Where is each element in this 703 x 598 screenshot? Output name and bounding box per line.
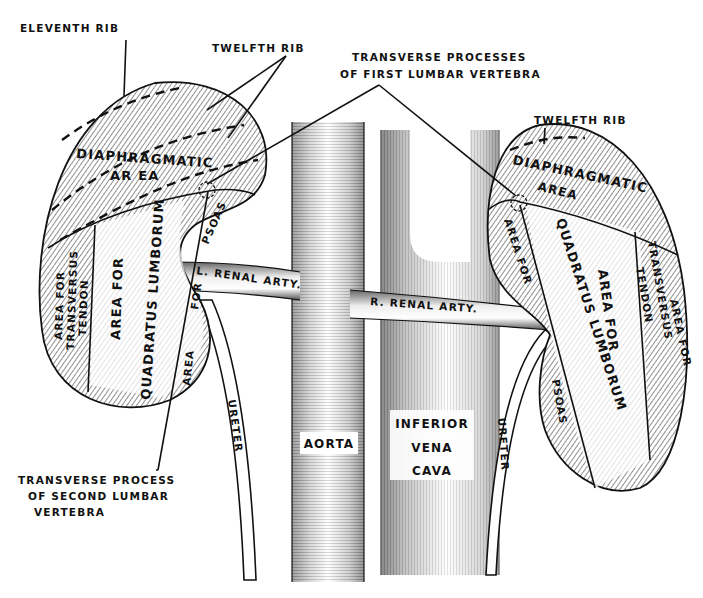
transverse-second-label-1: TRANSVERSE PROCESS [18,474,175,486]
ivc-label-3: CAVA [412,464,452,478]
transverse-first-label-2: OF FIRST LUMBAR VERTEBRA [340,68,541,80]
twelfth-rib-label-left: TWELFTH RIB [212,42,305,54]
transverse-first-label-1: TRANSVERSE PROCESSES [352,51,526,63]
ivc-label-1: INFERIOR [395,417,469,431]
aorta-label: AORTA [304,437,355,451]
eleventh-rib-label: ELEVENTH RIB [20,22,119,34]
left-ureter-label: URETER [226,399,245,454]
transverse-second-label-3: VERTEBRA [34,506,105,518]
ivc-label-2: VENA [411,441,453,455]
kidney-diagram: AORTA INFERIOR VENA CAVA L. RENAL ARTY. … [0,0,703,598]
anatomy-figure: AORTA INFERIOR VENA CAVA L. RENAL ARTY. … [0,0,703,598]
transverse-second-label-2: OF SECOND LUMBAR [28,490,169,502]
inferior-vena-cava: INFERIOR VENA CAVA [380,130,500,575]
twelfth-rib-label-right: TWELFTH RIB [534,114,627,126]
aorta: AORTA [292,122,364,582]
left-transversus-label-3: TENDON [76,279,90,336]
left-diaphragmatic-label-2: AR EA [110,168,160,183]
left-quadratus-label-1: AREA FOR [108,257,126,341]
